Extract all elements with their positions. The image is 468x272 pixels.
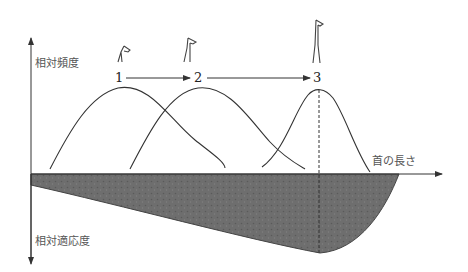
medium-neck-giraffe-icon [184,38,196,62]
distribution-curve-1 [50,87,225,169]
x-axis-label: 首の長さ [372,152,416,168]
stage-2-label: 2 [194,70,202,85]
long-neck-giraffe-icon [313,20,323,63]
y-axis-up-label: 相対頻度 [35,54,79,70]
stage-1-label: 1 [115,70,123,85]
stage-3-label: 3 [313,70,321,85]
distribution-curve-3 [262,90,370,172]
y-axis-down-label: 相対適応度 [35,232,90,248]
distribution-curve-2 [130,88,305,169]
short-neck-giraffe-icon [118,46,130,62]
